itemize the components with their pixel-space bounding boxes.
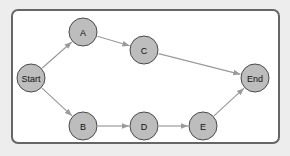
node-label: A [80,28,86,38]
node-start: Start [17,64,45,92]
edge-a-to-c [97,36,129,46]
edge-start-to-b [42,88,72,116]
node-a: A [69,18,97,46]
node-label: C [141,46,148,56]
node-c: C [130,36,158,64]
node-label: Start [21,74,41,84]
node-end: End [241,64,269,92]
node-label: E [200,122,206,132]
edge-c-to-end [159,54,241,75]
node-label: End [247,74,263,84]
edge-e-to-end [214,88,244,116]
node-b: B [69,112,97,140]
node-e: E [189,112,217,140]
node-label: D [141,122,148,132]
node-d: D [130,112,158,140]
graph-canvas: StartACEndBDE [0,0,290,156]
node-label: B [80,122,86,132]
edge-start-to-a [42,42,72,68]
